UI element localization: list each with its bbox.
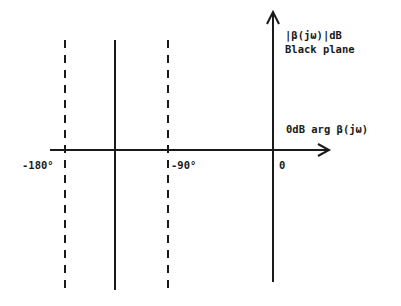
y-axis-label-magnitude: |β(jω)|dB — [285, 29, 342, 42]
y-axis-label-plane: Black plane — [285, 43, 355, 55]
x-axis-label: 0dB arg β(jω) — [286, 123, 368, 135]
black-plane-diagram: |β(jω)|dB Black plane 0dB arg β(jω) -180… — [0, 0, 401, 306]
tick-label-zero: 0 — [279, 159, 285, 171]
tick-label-minus-90: -90° — [171, 159, 196, 171]
tick-label-minus-180: -180° — [22, 159, 54, 171]
